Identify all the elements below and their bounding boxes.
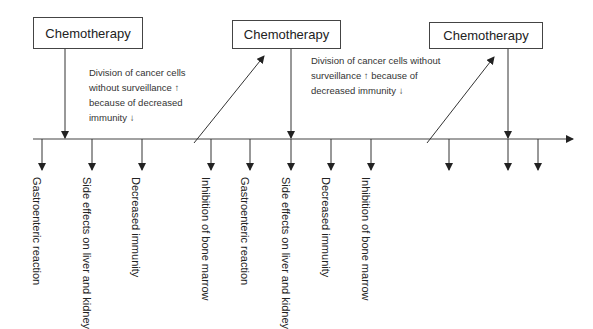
chemo-box-label: Chemotherapy [443, 28, 528, 43]
note-line: without surveillance ↑ [89, 80, 186, 95]
note-line: surveillance ↑ because of [311, 68, 440, 83]
effect-line: and kidney [81, 276, 93, 329]
note-line: decreased immunity ↓ [311, 83, 440, 98]
effect-line: Inhibition of bone [360, 177, 372, 261]
effect-line: reaction [239, 246, 251, 285]
effect-line: Side effects on liver [81, 177, 93, 273]
effect-line: reaction [31, 246, 43, 285]
effect-label-gastro-2: Gastroenteric reaction [238, 177, 251, 285]
effect-line: marrow [360, 264, 372, 301]
chemo-box-label: Chemotherapy [244, 27, 329, 42]
effect-arrows [42, 139, 538, 170]
chemo-box-3: Chemotherapy [429, 22, 543, 49]
effect-line: Decreased [130, 177, 142, 230]
effect-label-marrow-1: Inhibition of bone marrow [199, 177, 212, 301]
effect-line: and kidney [280, 276, 292, 329]
effect-line: Side effects on liver [280, 177, 292, 273]
effect-line: Inhibition of bone [200, 177, 212, 261]
effect-line: Decreased [320, 177, 332, 230]
effect-label-liver-1: Side effects on liver and kidney [80, 177, 93, 329]
effect-line: Gastroenteric [239, 177, 251, 243]
growth-note-1: Division of cancer cells without surveil… [89, 65, 186, 125]
effect-label-immunity-1: Decreased immunity [129, 177, 142, 277]
growth-arrow-1 [194, 56, 264, 143]
note-line: because of decreased [89, 95, 186, 110]
note-line: immunity ↓ [89, 110, 186, 125]
growth-note-2: Division of cancer cells without surveil… [311, 53, 440, 98]
effect-line: Gastroenteric [31, 177, 43, 243]
effect-label-immunity-2: Decreased immunity [319, 177, 332, 277]
chemo-box-1: Chemotherapy [33, 17, 143, 49]
chemo-box-2: Chemotherapy [232, 20, 341, 49]
note-line: Division of cancer cells without [311, 53, 440, 68]
effect-label-marrow-2: Inhibition of bone marrow [359, 177, 372, 301]
effect-line: marrow [200, 264, 212, 301]
effect-line: immunity [130, 233, 142, 277]
effect-label-gastro-1: Gastroenteric reaction [30, 177, 43, 285]
effect-label-liver-2: Side effects on liver and kidney [279, 177, 292, 329]
chemo-box-label: Chemotherapy [45, 26, 130, 41]
effect-line: immunity [320, 233, 332, 277]
note-line: Division of cancer cells [89, 65, 186, 80]
